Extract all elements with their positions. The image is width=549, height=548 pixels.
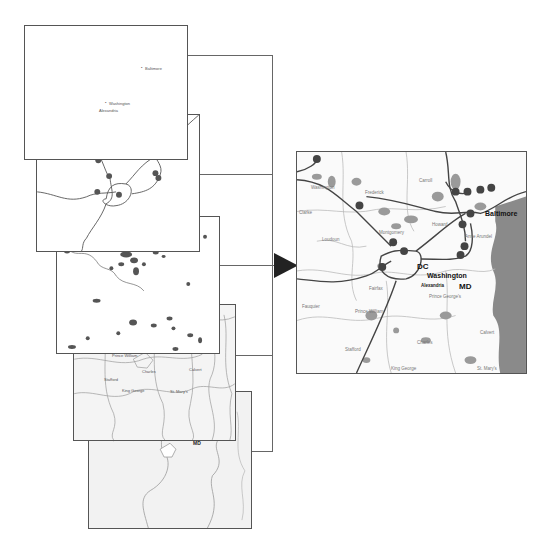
composite-county-washington: Washington [311, 185, 335, 190]
city-label-baltimore: Baltimore [145, 66, 162, 71]
composite-county-calvert: Calvert [480, 330, 494, 335]
city-dot-baltimore: • [141, 65, 142, 70]
composite-label-dc: DC [417, 262, 429, 271]
composite-county-carroll: Carroll [419, 178, 432, 183]
composite-label-washington: Washington [427, 272, 467, 279]
composite-county-stafford: Stafford [345, 347, 361, 352]
composite-county-montgomery: Montgomery [379, 230, 404, 235]
county-label-charles: Charles [142, 369, 156, 374]
county-label-calvert: Calvert [189, 367, 202, 372]
connector-layer-5 [251, 451, 273, 452]
composite-county-prince-william: Prince William [355, 309, 384, 314]
layer-panel-cities: • Baltimore • Washington Alexandria [24, 25, 188, 160]
composite-county-fairfax: Fairfax [369, 286, 383, 291]
composite-label-alexandria: Alexandria [421, 283, 444, 288]
composite-county-anne-arundel: Anne Arundel [465, 234, 492, 239]
composite-label-md: MD [459, 282, 471, 291]
county-label-king-george: King George [122, 388, 144, 393]
composite-county-st-marys: St. Mary's [477, 366, 497, 371]
county-label-st-marys: St. Mary's [170, 389, 188, 394]
county-label-stafford: Stafford [104, 377, 118, 382]
connector-layer-1 [187, 55, 273, 56]
composite-county-charles: Charles [417, 340, 433, 345]
arrow-right-icon [274, 253, 298, 278]
composite-label-baltimore: Baltimore [485, 210, 517, 217]
connector-vertical [272, 55, 273, 452]
connector-layer-4 [235, 355, 273, 356]
connector-layer-3 [219, 265, 273, 266]
composite-county-loudoun: Loudoun [322, 237, 340, 242]
composite-county-clarke: Clarke [299, 210, 312, 215]
city-label-washington: Washington [109, 101, 130, 106]
composite-county-prince-georges: Prince George's [429, 294, 461, 299]
city-label-alexandria: Alexandria [99, 108, 118, 113]
composite-county-fauquier: Fauquier [302, 304, 320, 309]
composite-county-howard: Howard [432, 222, 448, 227]
composite-county-king-george: King George [391, 366, 416, 371]
composite-map: Washington Frederick Carroll Howard Clar… [296, 151, 527, 374]
composite-county-frederick: Frederick [365, 190, 384, 195]
city-dot-washington: • [105, 100, 106, 105]
connector-layer-2 [199, 174, 273, 175]
